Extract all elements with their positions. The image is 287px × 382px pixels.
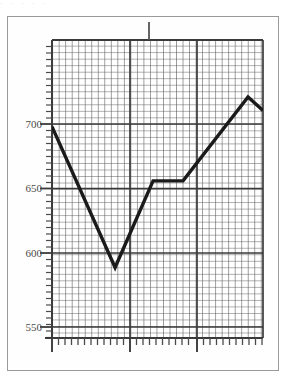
y-tick-label-600: 600 <box>8 247 42 259</box>
y-tick-label-550: 550 <box>8 321 42 333</box>
y-axis-major-ticks <box>40 124 52 327</box>
chart-figure: · · · · · <box>0 0 287 382</box>
y-tick-label-650: 650 <box>8 182 42 194</box>
x-axis-minor-ticks <box>59 338 263 345</box>
plot-area <box>0 0 287 382</box>
y-tick-label-700: 700 <box>8 118 42 130</box>
